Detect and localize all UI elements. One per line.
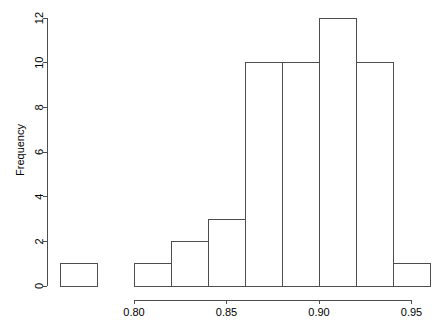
x-tick-label: 0.80 bbox=[123, 306, 144, 318]
x-tick-label: 0.90 bbox=[308, 306, 329, 318]
histogram-bar bbox=[356, 63, 393, 286]
x-tick-label: 0.85 bbox=[216, 306, 237, 318]
y-tick-label: 12 bbox=[33, 12, 45, 24]
y-axis-ticks: 024681012 bbox=[33, 12, 47, 289]
histogram-bar bbox=[282, 63, 319, 286]
y-tick-label: 4 bbox=[33, 194, 45, 200]
histogram-bars bbox=[60, 18, 430, 286]
y-tick-label: 10 bbox=[33, 57, 45, 69]
histogram-bar bbox=[134, 264, 171, 286]
y-tick-label: 2 bbox=[33, 238, 45, 244]
x-axis: 0.800.850.900.95 bbox=[123, 300, 422, 318]
x-tick-label: 0.95 bbox=[401, 306, 422, 318]
x-axis-ticks: 0.800.850.900.95 bbox=[123, 300, 422, 318]
y-tick-label: 8 bbox=[33, 104, 45, 110]
histogram-plot: 024681012 0.800.850.900.95 Frequency bbox=[0, 0, 446, 323]
histogram-bar bbox=[60, 264, 97, 286]
y-axis: 024681012 bbox=[33, 12, 47, 289]
histogram-bar bbox=[319, 18, 356, 286]
histogram-bar bbox=[393, 264, 430, 286]
histogram-bar bbox=[208, 219, 245, 286]
y-tick-label: 6 bbox=[33, 149, 45, 155]
histogram-bar bbox=[245, 63, 282, 286]
histogram-bar bbox=[171, 241, 208, 286]
y-axis-title: Frequency bbox=[14, 124, 26, 176]
histogram-svg: 024681012 0.800.850.900.95 Frequency bbox=[0, 0, 446, 323]
y-tick-label: 0 bbox=[33, 283, 45, 289]
